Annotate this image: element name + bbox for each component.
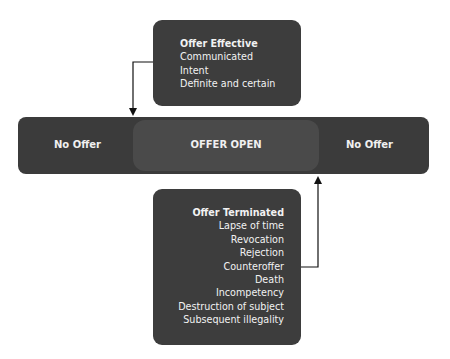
effective-arrow-line	[133, 62, 153, 110]
terminated-arrow-head	[314, 176, 322, 184]
terminated-arrow-line	[301, 182, 318, 267]
effective-arrow-head	[129, 108, 137, 116]
connector-arrows	[0, 0, 450, 359]
